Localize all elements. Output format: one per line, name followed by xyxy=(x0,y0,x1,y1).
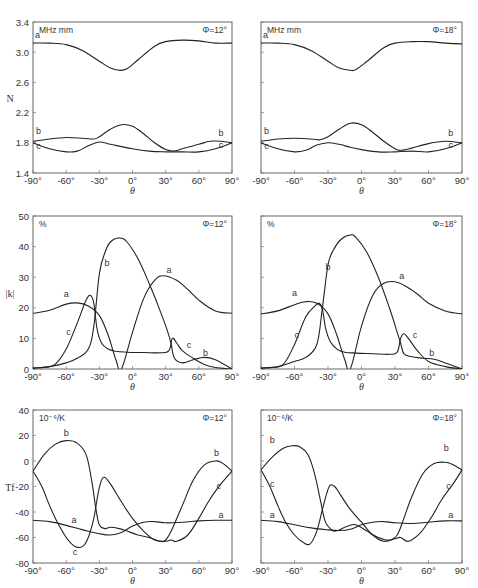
series-b-label: b xyxy=(264,126,269,136)
series-a-label: a xyxy=(399,271,404,281)
x-tick-label: 90° xyxy=(455,371,470,382)
x-tick-label: 90° xyxy=(455,565,470,576)
x-tick-label: -30° xyxy=(91,175,109,186)
y-tick-label: 40 xyxy=(18,241,29,252)
series-c-label: c xyxy=(270,479,275,489)
y-tick-label: 2.6 xyxy=(16,77,29,88)
y-tick-label: 0 xyxy=(24,364,29,375)
series-c-line xyxy=(261,470,462,545)
series-b-line xyxy=(261,123,462,151)
chart-panel-top-left: -90°-60°-30°0°30°60°90°θ1.41.82.22.63.03… xyxy=(6,17,239,197)
series-a-line xyxy=(261,41,462,70)
series-b-label: b xyxy=(270,435,275,445)
x-tick-label: -90° xyxy=(252,371,270,382)
chart-panel-bottom-right: -90°-60°-30°0°30°60°90°θ10⁻⁶/KΦ=18°aabbc… xyxy=(252,410,469,586)
series-c-label: c xyxy=(216,481,221,491)
series-a-label: a xyxy=(263,30,268,40)
chart-title: Φ=18° xyxy=(432,413,457,423)
chart-panel-top-right: -90°-60°-30°0°30°60°90°θMHz mmΦ=18°abbcc xyxy=(252,22,469,196)
y-tick-label: 0 xyxy=(24,456,29,467)
x-tick-label: -60° xyxy=(57,175,75,186)
chart-title: Φ=18° xyxy=(432,219,457,229)
x-tick-label: 90° xyxy=(225,565,240,576)
x-tick-label: -90° xyxy=(252,565,270,576)
x-tick-label: -30° xyxy=(319,371,337,382)
series-c-label: c xyxy=(446,481,451,491)
x-tick-label: -60° xyxy=(286,175,304,186)
chart-title: Φ=12° xyxy=(202,219,227,229)
series-a-label: a xyxy=(64,289,69,299)
y-tick-label: 10 xyxy=(18,333,29,344)
x-axis-label: θ xyxy=(130,185,135,196)
x-tick-label: 30° xyxy=(158,565,173,576)
series-b-line xyxy=(261,446,462,541)
x-tick-label: 60° xyxy=(421,371,436,382)
y-tick-label: -40 xyxy=(15,507,29,518)
x-tick-label: -60° xyxy=(57,371,75,382)
y-tick-label: 1.4 xyxy=(16,168,29,179)
x-axis-label: θ xyxy=(359,185,364,196)
series-c-label: c xyxy=(187,340,192,350)
plot-frame xyxy=(261,410,462,563)
x-tick-label: 30° xyxy=(158,175,173,186)
x-tick-label: -60° xyxy=(286,371,304,382)
chart-panel-middle-left: -90°-60°-30°0°30°60°90°θ01020304050|k|%Φ… xyxy=(5,211,239,393)
series-c-label: c xyxy=(73,547,78,557)
series-c-label: c xyxy=(449,140,454,150)
series-a-label: a xyxy=(35,30,40,40)
unit-label: MHz mm xyxy=(267,25,301,35)
series-a-line xyxy=(33,40,232,70)
y-axis-label: |k| xyxy=(5,288,14,299)
unit-label: MHz mm xyxy=(39,25,73,35)
x-tick-label: 60° xyxy=(421,565,436,576)
y-tick-label: 20 xyxy=(18,302,29,313)
figure-canvas: -90°-60°-30°0°30°60°90°θ1.41.82.22.63.03… xyxy=(0,0,478,588)
chart-title: Φ=12° xyxy=(202,25,227,35)
y-tick-label: 1.8 xyxy=(16,137,29,148)
series-c-label: c xyxy=(294,330,299,340)
series-b-label: b xyxy=(325,262,330,272)
series-b-line xyxy=(33,124,232,151)
series-b-label: b xyxy=(64,428,69,438)
series-b-label: b xyxy=(36,126,41,136)
series-c-line xyxy=(261,143,462,152)
x-tick-label: 60° xyxy=(192,371,207,382)
series-a-label: a xyxy=(218,510,223,520)
unit-label: % xyxy=(267,219,275,229)
chart-title: Φ=18° xyxy=(432,25,457,35)
series-c-label: c xyxy=(36,141,41,151)
series-b-label: b xyxy=(214,448,219,458)
plot-frame xyxy=(33,22,232,173)
series-a-label: a xyxy=(292,288,297,298)
x-tick-label: -90° xyxy=(252,175,270,186)
x-tick-label: 30° xyxy=(388,565,403,576)
x-tick-label: 90° xyxy=(225,371,240,382)
x-tick-label: 90° xyxy=(225,175,240,186)
x-tick-label: 60° xyxy=(421,175,436,186)
x-tick-label: -60° xyxy=(57,565,75,576)
series-b-label: b xyxy=(448,128,453,138)
y-axis-label: N xyxy=(6,93,13,104)
series-a-label: a xyxy=(448,510,453,520)
series-b-label: b xyxy=(444,443,449,453)
series-a-label: a xyxy=(270,510,275,520)
x-tick-label: -30° xyxy=(319,565,337,576)
series-c-label: c xyxy=(66,327,71,337)
series-a-label: a xyxy=(166,265,171,275)
y-axis-label: Tf xyxy=(5,482,15,493)
x-axis-label: θ xyxy=(359,381,364,392)
y-tick-label: 40 xyxy=(18,405,29,416)
y-tick-label: 3.4 xyxy=(16,17,29,28)
chart-panel-bottom-left: -90°-60°-30°0°30°60°90°θ-80-60-40-200204… xyxy=(5,405,239,587)
y-tick-label: 2.2 xyxy=(16,107,29,118)
y-tick-label: -80 xyxy=(15,558,29,569)
x-axis-label: θ xyxy=(130,381,135,392)
unit-label: % xyxy=(39,219,47,229)
x-tick-label: 60° xyxy=(192,175,207,186)
series-b-label: b xyxy=(105,258,110,268)
y-tick-label: -20 xyxy=(15,481,29,492)
series-c-label: c xyxy=(413,330,418,340)
x-tick-label: 90° xyxy=(455,175,470,186)
x-axis-label: θ xyxy=(359,575,364,586)
x-tick-label: 30° xyxy=(388,371,403,382)
